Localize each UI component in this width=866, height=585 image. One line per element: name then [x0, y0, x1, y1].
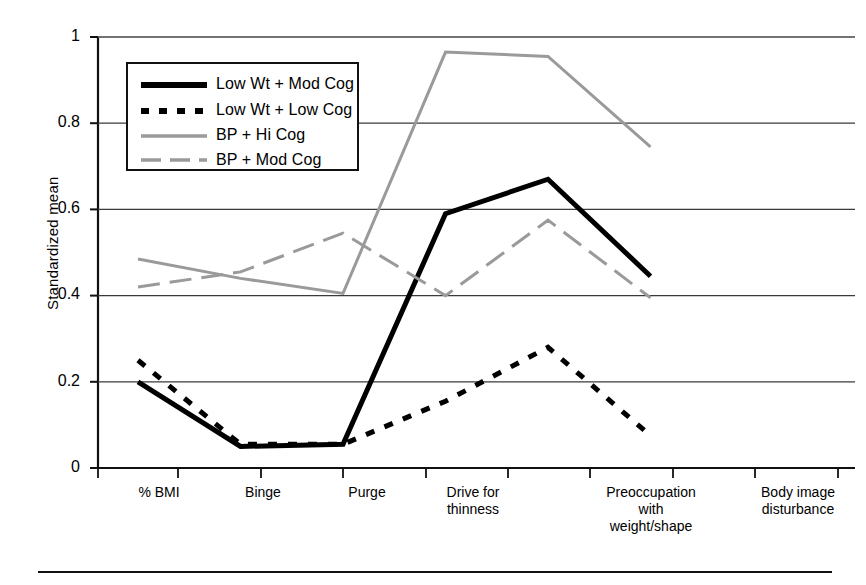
y-tick-label: 0.6 [20, 199, 80, 217]
series-line [138, 220, 651, 298]
x-tick-label-bmi: % BMI [98, 484, 220, 501]
x-tick-marks [98, 468, 838, 478]
series-line [138, 179, 651, 446]
chart-figure: Standardized mean 1 0.8 0.6 0.4 0.2 0 % … [0, 0, 866, 585]
x-tick-label-drive-for-thinness: Drive for thinness [416, 484, 530, 518]
x-tick-label-binge: Binge [204, 484, 322, 501]
x-tick-label-body-image: Body image disturbance [736, 484, 860, 518]
y-tick-label: 0.2 [20, 372, 80, 390]
footer-rule [38, 571, 832, 573]
legend-label-bp-hi-cog: BP + Hi Cog [216, 126, 305, 144]
x-tick-label-preoccupation: Preoccupation with weight/shape [572, 484, 730, 535]
legend-label-bp-mod-cog: BP + Mod Cog [216, 151, 321, 169]
y-tick-label: 0.4 [20, 285, 80, 303]
x-tick-label-purge: Purge [310, 484, 424, 501]
y-tick-label: 1 [20, 27, 80, 45]
y-tick-marks [90, 37, 98, 468]
legend-label-low-wt-low-cog: Low Wt + Low Cog [216, 101, 352, 119]
legend-label-low-wt-mod-cog: Low Wt + Mod Cog [216, 75, 354, 93]
y-tick-label: 0.8 [20, 113, 80, 131]
y-tick-label: 0 [20, 458, 80, 476]
